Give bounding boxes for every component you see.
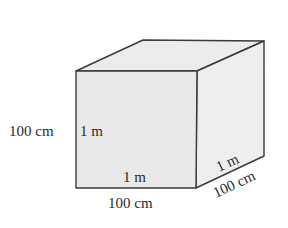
width-outer-label: 100 cm xyxy=(108,195,153,211)
height-outer-label: 100 cm xyxy=(9,123,54,139)
cube-figure: 100 cm 1 m 1 m 100 cm 1 m 100 cm xyxy=(0,0,288,228)
height-inner-label: 1 m xyxy=(80,123,103,139)
width-inner-label: 1 m xyxy=(123,169,146,185)
cube-diagram: 100 cm 1 m 1 m 100 cm 1 m 100 cm xyxy=(0,0,288,228)
